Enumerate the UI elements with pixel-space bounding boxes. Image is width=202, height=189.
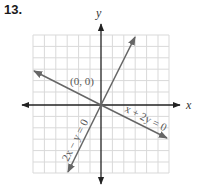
coordinate-plane: y x (0, 0) x + 2y = 0 2x − y = 0	[0, 0, 202, 189]
origin-label: (0, 0)	[70, 75, 94, 88]
x-axis-label: x	[185, 98, 192, 112]
line-2x-minus-y	[101, 37, 135, 105]
y-axis-label: y	[95, 6, 102, 20]
equation-label-2: 2x − y = 0	[59, 117, 91, 163]
